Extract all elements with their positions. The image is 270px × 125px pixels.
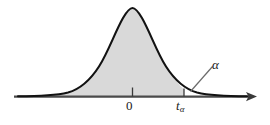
statistics-figure: 0 tα α [0,0,270,125]
alpha-leader-line [191,67,213,92]
critical-value-axis-label: tα [176,99,184,114]
critical-value-subscript: α [180,104,185,114]
tail-area-label: α [212,58,219,71]
distribution-plot [0,0,270,125]
origin-axis-label: 0 [126,99,133,112]
